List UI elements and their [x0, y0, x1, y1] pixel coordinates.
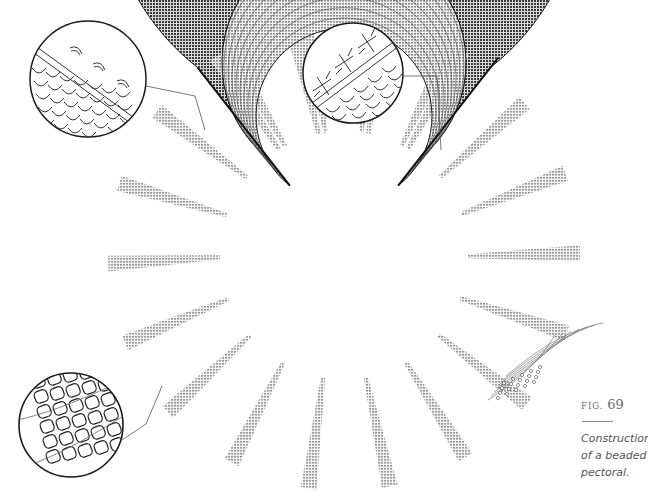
caption-line: pectoral.: [581, 464, 648, 481]
pectoral-figure: FIG. 69 Construction of a beaded pectora…: [0, 0, 648, 493]
caption-line: Construction: [581, 430, 648, 447]
figure-caption: FIG. 69 Construction of a beaded pectora…: [581, 397, 648, 481]
leader-line: [122, 386, 162, 440]
figure-label: FIG. 69: [581, 397, 648, 412]
figure-number: 69: [607, 397, 624, 412]
loose-threads: [488, 323, 603, 400]
caption-line: of a beaded: [581, 447, 648, 464]
caption-divider: [582, 421, 613, 422]
pectoral-illustration: [0, 0, 648, 493]
figure-label-text: FIG.: [581, 401, 603, 411]
caption-text: Construction of a beaded pectoral.: [581, 430, 648, 481]
detail-circle-bottom-left: [18, 362, 162, 477]
